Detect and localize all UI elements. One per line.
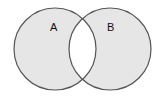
- venn-diagram: A B: [0, 0, 160, 99]
- set-a-label: A: [50, 21, 58, 33]
- set-b-label: B: [107, 21, 114, 33]
